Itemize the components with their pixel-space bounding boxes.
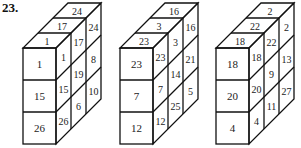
side-face-number: 5	[188, 86, 193, 97]
side-face-number: 14	[171, 69, 181, 80]
side-face-number: 10	[89, 86, 99, 97]
side-face-number: 6	[76, 101, 81, 112]
cube-stack-1: 1152611724115261719624810	[23, 3, 101, 144]
side-face-number: 11	[267, 101, 277, 112]
side-face-number: 23	[156, 52, 166, 63]
front-face-number: 1	[37, 58, 43, 70]
side-face-number: 26	[59, 116, 69, 127]
top-face-number: 18	[235, 36, 245, 47]
side-face-number: 15	[59, 84, 69, 95]
cube-stacks-diagram: 1152611724115261719624810237122331623712…	[0, 0, 301, 148]
side-face-number: 20	[252, 84, 262, 95]
top-face-number: 22	[250, 21, 260, 32]
front-face-number: 7	[134, 90, 140, 102]
top-face-number: 23	[139, 36, 149, 47]
side-face-number: 1	[61, 52, 66, 63]
top-face-number: 24	[72, 6, 82, 17]
side-face-number: 24	[89, 22, 99, 33]
top-face-number: 16	[169, 6, 179, 17]
side-face-number: 16	[186, 22, 196, 33]
front-face-number: 15	[34, 90, 46, 102]
front-face-number: 4	[230, 122, 236, 134]
side-face-number: 18	[252, 52, 262, 63]
side-face-number: 8	[91, 54, 96, 65]
side-face-number: 17	[74, 37, 84, 48]
side-face-number: 13	[282, 54, 292, 65]
side-face-number: 25	[171, 101, 181, 112]
top-face-number: 2	[268, 6, 273, 17]
top-face-number: 17	[57, 21, 67, 32]
front-face-number: 26	[34, 122, 46, 134]
side-face-number: 3	[173, 37, 178, 48]
front-face-number: 18	[227, 58, 239, 70]
top-face-number: 3	[157, 21, 162, 32]
side-face-number: 12	[156, 116, 166, 127]
front-face-number: 12	[131, 122, 142, 134]
side-face-number: 27	[282, 86, 292, 97]
side-face-number: 21	[186, 54, 196, 65]
front-face-number: 20	[227, 90, 239, 102]
cube-stack-2: 2371223316237123142516215	[120, 3, 198, 144]
side-face-number: 9	[269, 69, 274, 80]
side-face-number: 4	[254, 116, 259, 127]
side-face-number: 22	[267, 37, 277, 48]
cube-stack-3: 1820418222182042291121327	[216, 3, 294, 144]
side-face-number: 19	[74, 69, 84, 80]
front-face-number: 23	[131, 58, 143, 70]
side-face-number: 2	[284, 22, 289, 33]
top-face-number: 1	[45, 36, 50, 47]
side-face-number: 7	[158, 84, 163, 95]
